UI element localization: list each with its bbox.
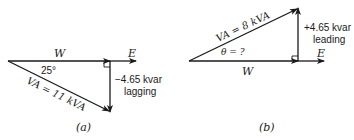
kvar-label-a-line1: −4.65 kvar	[115, 74, 163, 85]
kvar-label-b-line1: +4.65 kvar	[304, 22, 352, 33]
kvar-label-b-line2: leading	[313, 34, 345, 45]
e-label-b: E	[316, 47, 325, 60]
kvar-label-a-line2: lagging	[124, 86, 156, 97]
angle-label-a: 25°	[41, 65, 56, 76]
w-label-b: W	[242, 65, 255, 78]
caption-b: (b)	[259, 121, 275, 134]
caption-a: (a)	[76, 121, 91, 134]
w-label-a: W	[54, 47, 67, 60]
power-triangle-figure: W E 25° VA = 11 kVA −4.65 kvar lagging (…	[0, 0, 354, 140]
e-label-a: E	[127, 47, 136, 60]
va-vector-a	[8, 61, 109, 111]
va-label-a: VA = 11 kVA	[25, 75, 88, 113]
right-angle-marker-b	[292, 56, 298, 61]
right-angle-marker-a	[104, 61, 110, 67]
angle-label-b: θ = ?	[221, 47, 245, 57]
va-label-b: VA = 8 kVA	[214, 9, 271, 43]
